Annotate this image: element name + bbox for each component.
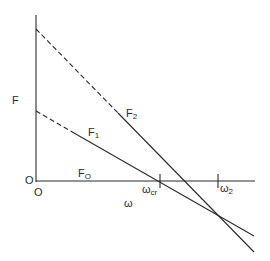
- origin-label-y: O: [25, 174, 34, 186]
- f1-line-dashed: [36, 111, 74, 133]
- f0-label: FO: [78, 167, 91, 181]
- f1-label: F1: [88, 126, 100, 140]
- omega-2-label: ω2: [220, 182, 234, 196]
- y-axis-label: F: [12, 94, 19, 106]
- f2-label: F2: [126, 107, 138, 121]
- origin-label-x: O: [34, 186, 43, 198]
- x-axis-label: ω: [124, 197, 133, 209]
- frequency-force-diagram: F O O ω FO F1 F2 ωcr ω2: [0, 0, 270, 261]
- f2-line-dashed: [36, 29, 118, 113]
- omega-cr-label: ωcr: [142, 183, 158, 197]
- f2-line-solid: [118, 113, 254, 252]
